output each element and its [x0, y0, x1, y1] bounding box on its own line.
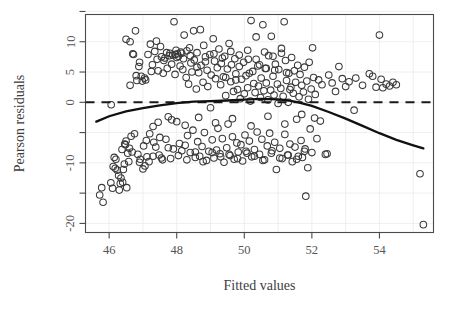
data-point	[212, 120, 219, 127]
data-point	[157, 43, 164, 50]
data-point	[260, 21, 267, 28]
data-point	[232, 55, 239, 62]
data-point	[116, 187, 123, 194]
data-point	[302, 193, 309, 200]
loess-curve-path	[96, 99, 423, 148]
gridlines-group	[86, 11, 434, 232]
data-point	[112, 165, 119, 172]
data-point	[359, 82, 366, 89]
data-point	[298, 137, 305, 144]
data-point	[294, 62, 301, 69]
data-point	[271, 139, 278, 146]
data-point	[143, 137, 150, 144]
data-point	[149, 61, 156, 68]
data-point	[268, 33, 275, 40]
data-point	[351, 107, 358, 114]
data-point	[229, 134, 236, 141]
data-point	[197, 26, 204, 33]
data-point	[248, 123, 255, 130]
data-point	[167, 155, 174, 162]
data-point	[200, 42, 207, 49]
data-point	[282, 131, 289, 138]
data-point	[319, 81, 326, 88]
data-point	[352, 75, 359, 82]
data-point	[208, 72, 215, 79]
scatter-plot-svg: 46485052541050-10-20Fitted valuesPearson…	[0, 0, 450, 309]
data-point	[98, 184, 105, 191]
data-point	[145, 51, 152, 58]
data-point	[305, 164, 312, 171]
data-point	[252, 89, 259, 96]
data-point	[346, 78, 353, 85]
data-point	[217, 81, 224, 88]
data-point	[224, 66, 231, 73]
axis-ticks-group	[80, 11, 380, 238]
data-point	[183, 74, 190, 81]
data-point	[339, 75, 346, 82]
data-point	[283, 77, 290, 84]
data-point	[234, 86, 241, 93]
data-point	[261, 49, 268, 56]
data-point	[244, 84, 251, 91]
data-point	[265, 113, 272, 120]
data-point	[270, 53, 277, 60]
data-point	[199, 143, 206, 150]
data-point	[263, 80, 270, 87]
y-tick-label: 5	[64, 69, 78, 75]
data-point	[274, 81, 281, 88]
data-point	[420, 221, 427, 228]
data-point	[245, 56, 252, 63]
data-point	[271, 92, 278, 99]
data-point	[281, 18, 288, 25]
data-point	[184, 132, 191, 139]
data-point	[113, 156, 120, 163]
x-tick-label: 54	[373, 243, 386, 257]
data-point	[146, 130, 153, 137]
data-point	[151, 48, 158, 55]
data-point	[312, 91, 319, 98]
data-point	[329, 80, 336, 87]
data-point	[214, 64, 221, 71]
data-point	[211, 51, 218, 58]
data-point	[267, 87, 274, 94]
data-point	[236, 52, 243, 59]
data-point	[209, 137, 216, 144]
x-axis-title: Fitted values	[224, 278, 296, 293]
data-point	[211, 58, 218, 65]
plot-frame	[86, 15, 434, 233]
data-point	[219, 135, 226, 142]
data-point	[273, 166, 280, 173]
data-point	[314, 135, 321, 142]
data-point	[230, 88, 237, 95]
data-points-group	[96, 17, 426, 228]
residuals-vs-fitted-plot: 46485052541050-10-20Fitted valuesPearson…	[0, 0, 450, 309]
data-point	[261, 88, 268, 95]
data-point	[246, 138, 253, 145]
data-point	[238, 141, 245, 148]
data-point	[300, 89, 307, 96]
data-point	[223, 144, 230, 151]
data-point	[259, 136, 266, 143]
data-point	[226, 40, 233, 47]
data-point	[282, 121, 289, 128]
data-point	[298, 111, 305, 118]
data-point	[244, 47, 251, 54]
y-tick-label: -10	[64, 155, 78, 172]
axis-labels-group: 46485052541050-10-20Fitted valuesPearson…	[12, 36, 386, 294]
data-point	[292, 144, 299, 151]
data-point	[417, 170, 424, 177]
data-point	[304, 78, 311, 85]
data-point	[123, 184, 130, 191]
data-point	[336, 63, 343, 70]
data-point	[235, 149, 242, 156]
data-point	[132, 28, 139, 35]
data-point	[110, 163, 117, 170]
data-point	[182, 122, 189, 129]
data-point	[187, 52, 194, 59]
x-tick-label: 46	[103, 243, 116, 257]
data-point	[234, 140, 241, 147]
data-point	[332, 88, 339, 95]
data-point	[185, 81, 192, 88]
y-axis-title: Pearson residuals	[12, 75, 27, 173]
data-point	[292, 79, 299, 86]
